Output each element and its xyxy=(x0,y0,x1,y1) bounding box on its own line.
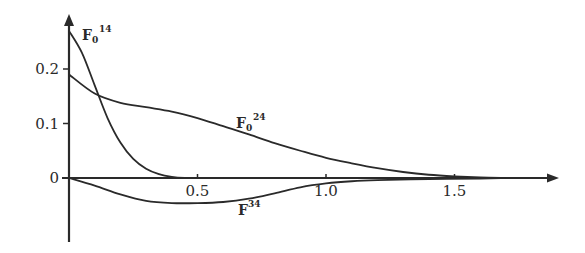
y-tick-label: 0.2 xyxy=(35,60,59,78)
svg-text:F: F xyxy=(238,202,248,218)
x-axis-arrow-icon xyxy=(547,174,559,183)
y-tick-label: 0.1 xyxy=(35,115,59,133)
svg-text:34: 34 xyxy=(248,199,261,209)
curve-label: F34 xyxy=(238,199,261,218)
svg-text:14: 14 xyxy=(99,24,112,34)
svg-text:F: F xyxy=(236,115,246,131)
y-axis-arrow-icon xyxy=(64,14,74,26)
svg-text:0: 0 xyxy=(92,35,98,45)
x-tick-label: 0.5 xyxy=(186,182,210,200)
curve-label: F024 xyxy=(236,112,266,133)
svg-text:0: 0 xyxy=(246,123,252,133)
y-tick-label: 0 xyxy=(49,169,59,187)
curve-label: F014 xyxy=(82,24,112,45)
svg-text:F: F xyxy=(82,27,92,43)
svg-text:24: 24 xyxy=(253,112,266,122)
curve-f-34 xyxy=(69,178,506,203)
x-tick-label: 1.5 xyxy=(443,182,467,200)
axes xyxy=(62,14,559,242)
curve-f0-24 xyxy=(69,74,506,178)
curve-f0-14 xyxy=(69,31,223,178)
line-chart: 0.51.01.500.10.2 F014F024F34 xyxy=(0,0,585,253)
